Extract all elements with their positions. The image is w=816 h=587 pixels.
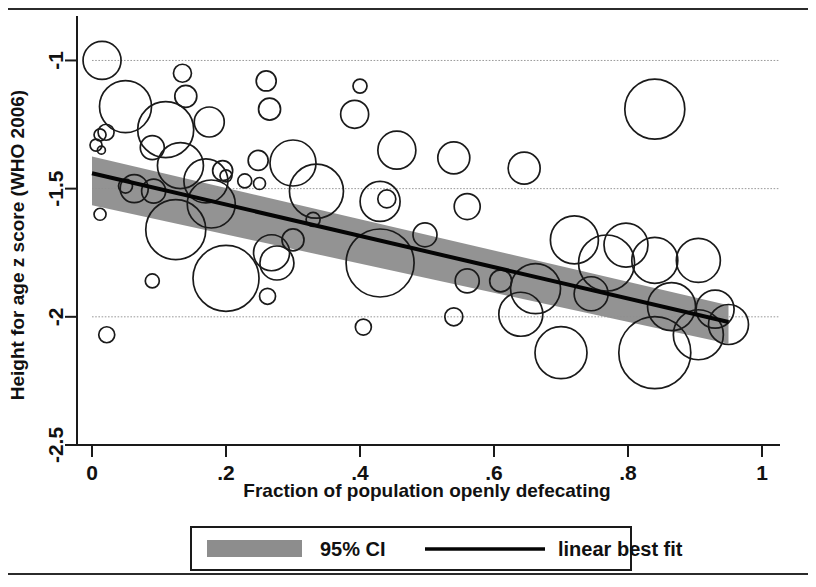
figure-container: 0.2.4.6.81 -1-1.5-2-2.5 Fraction of popu…	[0, 0, 816, 587]
bubble-marker	[238, 174, 252, 188]
bubble-marker	[173, 64, 191, 82]
bubble-marker	[248, 150, 268, 170]
linear-best-fit-line	[92, 173, 729, 322]
bubble-marker	[259, 98, 281, 120]
x-tick-label: 1	[756, 461, 768, 484]
y-tick-label: -2	[44, 307, 67, 326]
bubble-marker	[90, 139, 102, 151]
y-tick-label: -2.5	[44, 427, 67, 464]
x-axis-title: Fraction of population openly defecating	[243, 480, 610, 501]
bubble-marker	[378, 131, 416, 169]
bubble-marker	[138, 102, 194, 158]
x-tick-label: .8	[619, 461, 637, 484]
bubble-marker	[260, 288, 276, 304]
bubble-marker	[508, 152, 540, 184]
bubble-marker	[256, 71, 276, 91]
bubble-marker	[194, 107, 224, 137]
legend-label-ci: 95% CI	[320, 538, 386, 560]
x-tick-label: 0	[86, 461, 98, 484]
scatter-plot: 0.2.4.6.81 -1-1.5-2-2.5 Fraction of popu…	[0, 0, 816, 587]
bubble-marker	[604, 223, 648, 267]
bubble-marker	[145, 274, 159, 288]
ci-band-polygon	[92, 157, 729, 344]
bubble-marker	[360, 181, 400, 221]
bubble-marker	[632, 237, 678, 283]
bubble-marker	[353, 79, 367, 93]
bubble-marker	[454, 194, 480, 220]
y-tick-label: -1	[44, 51, 67, 70]
y-axis-tick-labels: -1-1.5-2-2.5	[44, 51, 67, 463]
confidence-interval-band	[92, 157, 729, 344]
legend-ci-swatch	[207, 540, 302, 557]
legend: 95% CI linear best fit	[191, 527, 683, 570]
bubble-marker	[99, 327, 115, 343]
bubble-marker	[535, 327, 587, 379]
x-tick-label: .2	[217, 461, 235, 484]
bubble-marker	[378, 190, 396, 208]
bubble-marker	[676, 238, 720, 282]
bubble-marker	[341, 100, 369, 128]
bubble-marker	[355, 319, 371, 335]
y-tick-label: -1.5	[44, 170, 67, 207]
bubble-marker	[625, 79, 685, 139]
bubble-marker	[94, 208, 106, 220]
fit-line-segment	[92, 173, 729, 322]
bubble-marker	[260, 246, 294, 280]
bubble-marker	[193, 245, 259, 311]
legend-label-fit: linear best fit	[558, 538, 683, 560]
bubble-marker	[438, 142, 470, 174]
y-axis-title: Height for age z score (WHO 2006)	[7, 90, 28, 400]
bubble-marker	[254, 178, 266, 190]
